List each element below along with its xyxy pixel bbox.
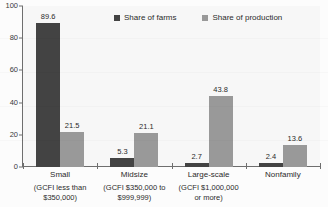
x-axis-category-label: Midsize(GCFI $350,000 to $999,999) bbox=[94, 170, 174, 203]
legend-label: Share of production bbox=[212, 14, 282, 22]
bar bbox=[185, 163, 209, 167]
bar bbox=[60, 132, 84, 167]
bar bbox=[283, 145, 307, 167]
bar bbox=[110, 158, 134, 167]
bars-layer: 89.65.32.72.421.521.143.813.6 bbox=[23, 6, 320, 167]
bar bbox=[259, 163, 283, 167]
legend-swatch-icon bbox=[114, 15, 120, 21]
bar-value-label: 2.7 bbox=[191, 153, 201, 161]
category-name: Nonfamily bbox=[243, 170, 323, 180]
x-axis-category-label: Small(GCFI less than $350,000) bbox=[20, 170, 100, 203]
legend-label: Share of farms bbox=[124, 14, 176, 22]
category-name: Large-scale bbox=[169, 170, 249, 180]
bar bbox=[209, 96, 233, 167]
legend-item[interactable]: Share of farms bbox=[114, 14, 176, 22]
category-sublabel: (GCFI less than $350,000) bbox=[20, 183, 100, 203]
category-name: Small bbox=[20, 170, 100, 180]
bar-value-label: 5.3 bbox=[117, 148, 127, 156]
bar-value-label: 43.8 bbox=[213, 86, 228, 94]
bar bbox=[134, 133, 158, 167]
category-sublabel: (GCFI $350,000 to $999,999) bbox=[94, 183, 174, 203]
bar-value-label: 89.6 bbox=[41, 13, 56, 21]
bar-chart-figure: 020406080100 89.65.32.72.421.521.143.813… bbox=[0, 0, 328, 207]
bar-value-label: 21.1 bbox=[139, 123, 154, 131]
legend-item[interactable]: Share of production bbox=[202, 14, 282, 22]
category-sublabel: (GCFI $1,000,000 or more) bbox=[169, 183, 249, 203]
bar-value-label: 21.5 bbox=[65, 122, 80, 130]
x-axis-tick-mark bbox=[320, 163, 321, 169]
legend-swatch-icon bbox=[202, 15, 208, 21]
bar bbox=[36, 23, 60, 167]
bar-value-label: 2.4 bbox=[266, 153, 276, 161]
x-axis-category-label: Large-scale(GCFI $1,000,000 or more) bbox=[169, 170, 249, 203]
bar-value-label: 13.6 bbox=[288, 135, 303, 143]
x-axis-category-label: Nonfamily bbox=[243, 170, 323, 180]
chart-legend: Share of farmsShare of production bbox=[112, 13, 284, 23]
category-name: Midsize bbox=[94, 170, 174, 180]
